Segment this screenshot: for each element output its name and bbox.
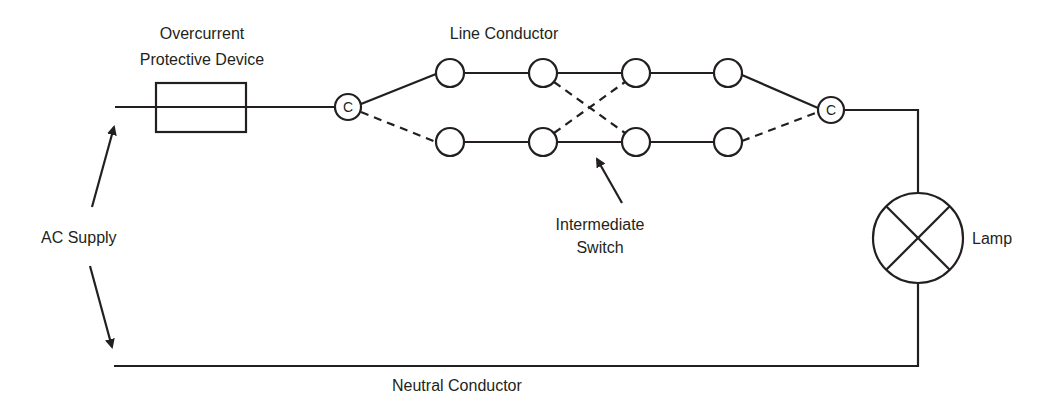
label-overcurrent-line2: Protective Device: [122, 50, 282, 69]
right-switch-blade-closed: [742, 75, 818, 108]
terminal-bottom-3: [622, 128, 650, 156]
label-intermediate-line2: Switch: [530, 238, 670, 257]
terminal-bottom-2: [529, 128, 557, 156]
label-overcurrent: Overcurrent Protective Device: [122, 24, 282, 69]
intermediate-switch-arrow: [597, 159, 622, 203]
label-intermediate-line1: Intermediate: [530, 215, 670, 234]
common-left-letter: C: [343, 99, 353, 115]
ac-supply-arrow-up: [92, 127, 114, 207]
left-switch-blade-open: [361, 112, 436, 142]
label-lamp: Lamp: [972, 229, 1012, 248]
label-intermediate-switch: Intermediate Switch: [530, 215, 670, 257]
terminal-top-2: [529, 59, 557, 87]
terminal-top-4: [714, 59, 742, 87]
terminal-top-3: [622, 59, 650, 87]
left-switch-blade-closed: [361, 74, 436, 104]
terminal-bottom-4: [714, 128, 742, 156]
neutral-conductor-wire: [114, 283, 918, 366]
right-switch-blade-open: [742, 112, 818, 141]
label-ac-supply: AC Supply: [41, 228, 161, 247]
label-neutral-conductor: Neutral Conductor: [392, 376, 592, 395]
ac-supply-arrow-down: [90, 266, 112, 347]
switch-wire-to-lamp: [844, 110, 918, 193]
label-line-conductor: Line Conductor: [424, 24, 584, 43]
common-right-letter: C: [826, 102, 836, 118]
label-overcurrent-line1: Overcurrent: [122, 24, 282, 43]
terminal-bottom-1: [436, 128, 464, 156]
terminal-top-1: [436, 59, 464, 87]
